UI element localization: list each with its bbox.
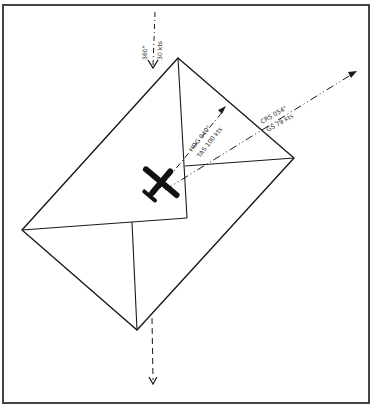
wind-speed-label: 30 kts	[156, 41, 163, 60]
wind-continuation-arrow-icon	[149, 318, 157, 384]
envelope-outline	[22, 58, 294, 330]
airplane-icon	[131, 154, 190, 212]
fold-line-left	[22, 218, 187, 230]
fold-line-right	[185, 158, 294, 166]
wind-direction-label: 360°	[141, 45, 148, 60]
wind-triangle-diagram: 360° 30 kts HDG 040° TAS 100 kts CRS 054…	[0, 0, 372, 407]
course-vector-arrow-icon	[165, 71, 357, 190]
fold-line-bottom	[132, 222, 137, 330]
